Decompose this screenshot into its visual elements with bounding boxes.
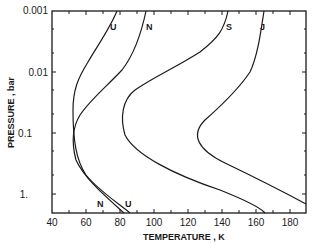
x-tick-160: 160 [248, 217, 265, 228]
curve-neptune [73, 11, 146, 213]
y-axis-label: PRESSURE , bar [6, 76, 16, 148]
label-N-bottom: N [97, 199, 104, 209]
x-axis-label: TEMPERATURE , K [143, 232, 225, 242]
x-tick-180: 180 [282, 217, 299, 228]
label-U-top: U [110, 22, 117, 32]
y-tick-0.001: 0.001 [23, 5, 48, 16]
x-tick-100: 100 [146, 217, 163, 228]
label-N-top: N [146, 22, 153, 32]
x-ticks [69, 11, 290, 213]
temperature-pressure-chart: 0.001 0.01 0.1 1. 40 60 80 100 120 140 1… [0, 0, 313, 245]
plot-frame [52, 11, 306, 213]
x-tick-40: 40 [46, 217, 58, 228]
label-S-top: S [226, 22, 232, 32]
y-tick-0.1: 0.1 [18, 128, 32, 139]
x-tick-120: 120 [180, 217, 197, 228]
x-tick-80: 80 [114, 217, 126, 228]
y-tick-0.01: 0.01 [29, 67, 49, 78]
x-tick-60: 60 [80, 217, 92, 228]
label-U-bottom: U [125, 199, 132, 209]
x-tick-140: 140 [214, 217, 231, 228]
curve-saturn [122, 11, 265, 213]
y-ticks [52, 29, 306, 194]
y-tick-1: 1. [20, 189, 28, 200]
label-J-top: J [260, 22, 265, 32]
curves [73, 11, 306, 213]
